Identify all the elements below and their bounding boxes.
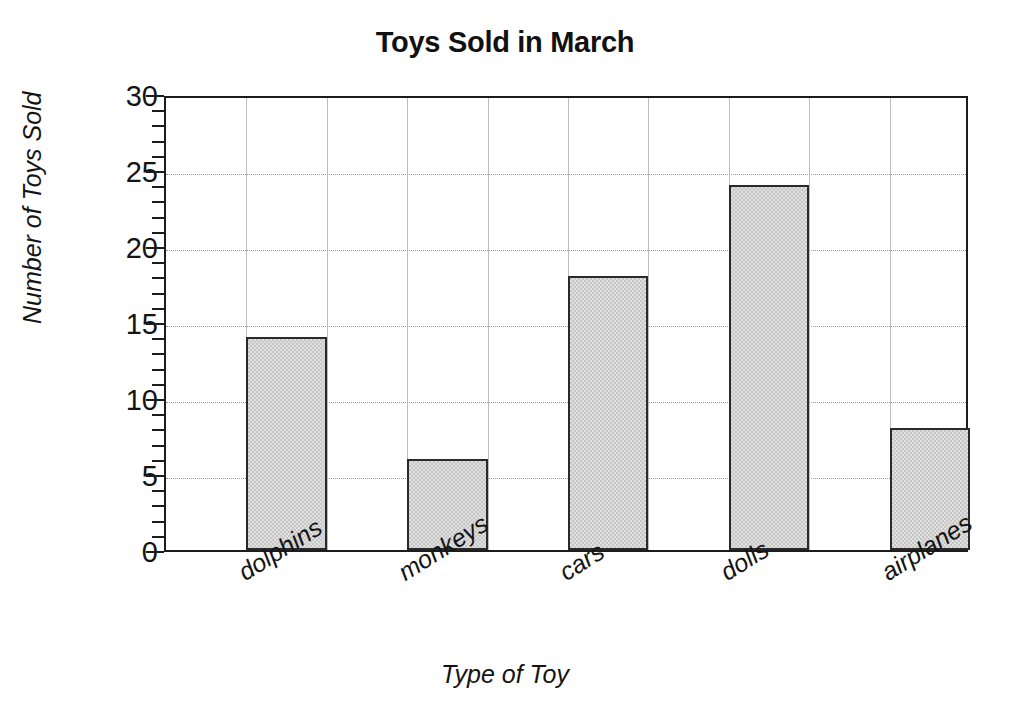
y-tick-major (146, 323, 164, 325)
y-tick-major (146, 171, 164, 173)
y-tick-minor (152, 156, 164, 158)
y-tick-major (146, 247, 164, 249)
gridline-horizontal (166, 326, 966, 327)
y-tick-minor (152, 186, 164, 188)
y-tick-minor (152, 460, 164, 462)
plot-area (164, 96, 968, 552)
y-tick-minor (152, 217, 164, 219)
gridline-vertical (648, 98, 649, 550)
y-tick-minor (152, 429, 164, 431)
y-tick-minor (152, 110, 164, 112)
y-tick-minor (152, 338, 164, 340)
bar-cars (568, 276, 648, 550)
y-tick-minor (152, 308, 164, 310)
y-tick-minor (152, 293, 164, 295)
gridline-horizontal (166, 174, 966, 175)
gridline-vertical (327, 98, 328, 550)
y-tick-minor (152, 445, 164, 447)
gridline-horizontal (166, 250, 966, 251)
y-tick-minor (152, 369, 164, 371)
bar-chart: Toys Sold in March Number of Toys Sold 0… (0, 0, 1010, 712)
x-axis-title: Type of Toy (0, 660, 1010, 689)
bar-dolls (729, 185, 809, 550)
y-tick-minor (152, 505, 164, 507)
y-tick-minor (152, 384, 164, 386)
gridline-vertical (488, 98, 489, 550)
y-tick-minor (152, 414, 164, 416)
y-tick-minor (152, 277, 164, 279)
y-tick-major (146, 475, 164, 477)
y-tick-minor (152, 125, 164, 127)
y-tick-minor (152, 521, 164, 523)
y-tick-minor (152, 353, 164, 355)
y-tick-minor (152, 536, 164, 538)
y-tick-major (146, 551, 164, 553)
y-tick-minor (152, 232, 164, 234)
y-tick-major (146, 95, 164, 97)
y-tick-minor (152, 201, 164, 203)
gridline-vertical (809, 98, 810, 550)
y-tick-minor (152, 262, 164, 264)
y-tick-minor (152, 141, 164, 143)
y-tick-minor (152, 490, 164, 492)
y-tick-major (146, 399, 164, 401)
